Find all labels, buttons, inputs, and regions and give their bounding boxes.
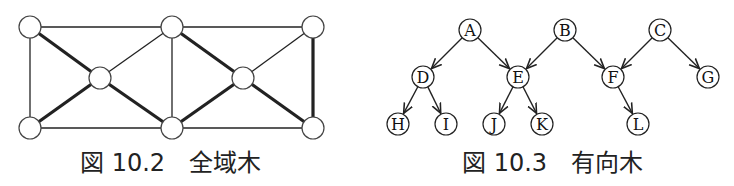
figure-caption-spanning-tree: 図 10.2 全域木 <box>80 143 261 178</box>
graph-node <box>89 67 111 89</box>
tree-edges <box>404 38 700 114</box>
node-label: E <box>512 68 524 87</box>
tree-edge <box>30 78 100 128</box>
directed-edge <box>523 87 537 114</box>
tree-node-h: H <box>387 113 409 135</box>
graph-node <box>232 67 254 89</box>
tree-edge <box>243 78 313 128</box>
node-label: B <box>559 21 571 40</box>
tree-edge <box>172 78 243 128</box>
tree-nodes: ABCDEFGHIJKL <box>387 19 719 135</box>
tree-edge <box>100 78 172 128</box>
tree-edge <box>30 27 100 78</box>
tree-node-f: F <box>602 66 624 88</box>
graph-node <box>161 117 183 139</box>
graph-edges <box>30 27 313 128</box>
directed-edge <box>526 38 557 69</box>
directed-edge <box>499 87 513 114</box>
node-label: C <box>654 21 666 40</box>
directed-edge <box>618 87 632 114</box>
tree-edge <box>172 27 243 78</box>
node-label: J <box>489 115 497 134</box>
directed-edge <box>573 38 605 69</box>
tree-node-b: B <box>554 19 576 41</box>
node-label: F <box>607 68 618 87</box>
graph-node <box>19 117 41 139</box>
node-label: A <box>463 21 476 40</box>
graph-node <box>302 117 324 139</box>
tree-node-j: J <box>483 113 505 135</box>
tree-node-g: G <box>697 66 719 88</box>
directed-edge <box>668 38 700 69</box>
tree-node-e: E <box>507 66 529 88</box>
tree-node-d: D <box>412 66 434 88</box>
spanning-tree-graph <box>19 16 324 139</box>
graph-node <box>161 16 183 38</box>
figure-caption-directed-tree: 図 10.3 有向木 <box>462 143 643 178</box>
graph-edge <box>243 27 313 78</box>
tree-node-i: I <box>435 113 457 135</box>
directed-edge <box>431 38 462 69</box>
graph-node <box>19 16 41 38</box>
tree-node-c: C <box>649 19 671 41</box>
node-label: L <box>633 115 644 134</box>
graph-edge <box>100 27 172 78</box>
node-label: H <box>391 115 405 134</box>
directed-edge <box>404 87 418 114</box>
tree-node-k: K <box>531 113 553 135</box>
directed-edge <box>621 38 652 69</box>
tree-node-a: A <box>459 19 481 41</box>
directed-edge <box>478 38 510 69</box>
node-label: G <box>702 68 715 87</box>
graph-node <box>302 16 324 38</box>
node-label: I <box>443 115 449 134</box>
node-label: D <box>417 68 430 87</box>
node-label: K <box>536 115 549 134</box>
directed-tree-graph: ABCDEFGHIJKL <box>387 19 719 135</box>
directed-edge <box>428 87 441 113</box>
tree-node-l: L <box>627 113 649 135</box>
